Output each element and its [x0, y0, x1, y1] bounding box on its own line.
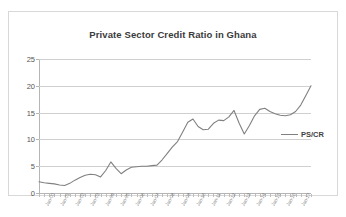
chart-figure: Private Sector Credit Ratio in Ghana 051… [8, 11, 338, 196]
x-tick-mark [90, 194, 91, 197]
x-tick-mark [101, 194, 102, 197]
x-tick-mark [162, 194, 163, 197]
series-line-ps-cr [39, 59, 311, 193]
x-tick-mark [285, 194, 286, 197]
x-tick-mark [255, 194, 256, 197]
x-tick-mark [60, 194, 61, 197]
y-tick-label-0: 0 [31, 189, 35, 198]
chart-title: Private Sector Credit Ratio in Ghana [9, 29, 337, 40]
x-tick-mark [208, 194, 209, 197]
x-tick-mark [178, 194, 179, 197]
y-tick-label-5: 5 [31, 162, 35, 171]
x-tick-mark [224, 194, 225, 197]
chart-legend: PS/CR [281, 130, 324, 139]
x-tick-mark [75, 194, 76, 197]
x-axis-labels: Jan-00Jan-01Jan-02Jan-03Jan-04Jan-05Jan-… [39, 198, 311, 212]
x-tick-mark [270, 194, 271, 197]
y-tick-label-15: 15 [27, 108, 35, 117]
x-tick-mark [39, 194, 40, 197]
x-tick-mark [239, 194, 240, 197]
x-tick-mark [44, 194, 45, 197]
y-tick-label-25: 25 [27, 55, 35, 64]
x-tick-mark [301, 194, 302, 197]
x-tick-mark [193, 194, 194, 197]
x-tick-mark [116, 194, 117, 197]
x-tick-mark [131, 194, 132, 197]
x-tick-mark [147, 194, 148, 197]
legend-label-ps-cr: PS/CR [301, 130, 324, 139]
plot-area: 0510152025 [39, 59, 311, 193]
y-tick-label-10: 10 [27, 135, 35, 144]
legend-line-swatch [281, 134, 298, 135]
y-tick-label-20: 20 [27, 81, 35, 90]
